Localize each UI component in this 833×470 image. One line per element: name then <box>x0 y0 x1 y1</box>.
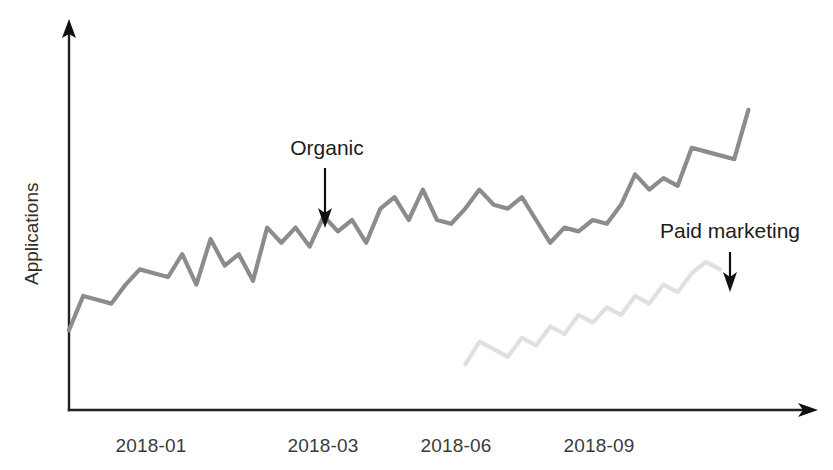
annotation-organic: Organic <box>290 136 364 228</box>
x-axis <box>69 403 818 417</box>
annotation-organic-label: Organic <box>290 136 364 159</box>
x-tick-label-1: 2018-03 <box>287 435 358 456</box>
x-tick-label-2: 2018-06 <box>420 435 491 456</box>
annotation-paid-marketing: Paid marketing <box>660 219 800 292</box>
chart-container: Applications 2018-01 2018-03 2018-06 201… <box>0 0 833 470</box>
y-axis-title: Applications <box>21 183 42 285</box>
x-tick-label-0: 2018-01 <box>115 435 186 456</box>
line-chart: Applications 2018-01 2018-03 2018-06 201… <box>0 0 833 470</box>
annotation-paid-marketing-label: Paid marketing <box>660 219 800 242</box>
x-tick-label-3: 2018-09 <box>563 435 634 456</box>
series-line-organic <box>69 110 748 330</box>
y-axis <box>62 19 76 410</box>
series-line-paid-marketing <box>465 262 720 365</box>
